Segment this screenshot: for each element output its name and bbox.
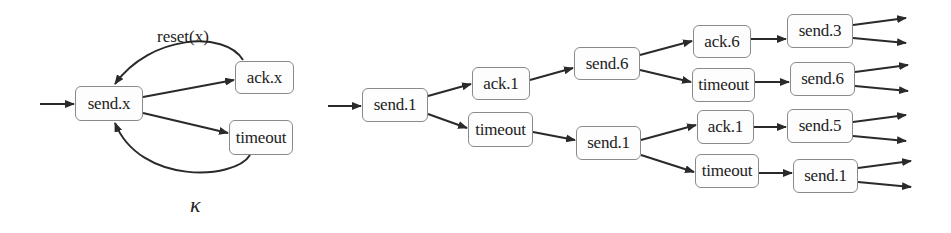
tree-leaf-edge (853, 115, 906, 122)
tree-node-send-6: send.6 (574, 47, 640, 80)
tree-leaf-edge (853, 136, 906, 141)
node-ack-x: ack.x (235, 61, 294, 94)
tree-leaf-edge (858, 161, 911, 168)
tree-edge (641, 155, 694, 172)
tree-leaf-edge (853, 18, 906, 25)
edge-send-to-timeout (143, 113, 228, 133)
tree-node-send-6: send.6 (790, 62, 855, 96)
edge-send-to-ack (143, 80, 234, 97)
caption-kappa: κ (190, 192, 201, 218)
tree-edge (428, 114, 467, 128)
tree-node-ack-1: ack.1 (697, 110, 754, 144)
diagram-canvas: send.x ack.x timeout reset(x) κ send.1 a… (0, 0, 951, 233)
tree-node-send-1: send.1 (793, 159, 858, 193)
tree-edge (640, 70, 691, 82)
tree-node-send-1: send.1 (576, 126, 641, 160)
tree-leaf-edge (858, 182, 911, 187)
tree-leaf-edge (853, 38, 906, 43)
tree-node-send-5: send.5 (787, 109, 853, 143)
tree-edge (428, 84, 471, 96)
tree-node-ack-1: ack.1 (472, 67, 530, 100)
tree-node-ack-6: ack.6 (693, 25, 751, 58)
tree-node-timeout: timeout (468, 112, 533, 147)
edge-reset (115, 41, 243, 84)
edge-label-reset: reset(x) (157, 27, 209, 47)
tree-edge (530, 68, 573, 80)
tree-edge (533, 132, 575, 140)
node-timeout: timeout (229, 120, 293, 155)
tree-leaf-edge (855, 65, 908, 72)
tree-node-timeout: timeout (695, 154, 759, 188)
tree-edge (641, 125, 696, 140)
tree-node-send-3: send.3 (787, 14, 853, 48)
tree-node-timeout: timeout (692, 68, 755, 102)
tree-leaf-edge (855, 86, 908, 91)
tree-edge (640, 41, 692, 55)
node-send-x: send.x (75, 86, 143, 121)
tree-node-send-1: send.1 (362, 88, 428, 122)
